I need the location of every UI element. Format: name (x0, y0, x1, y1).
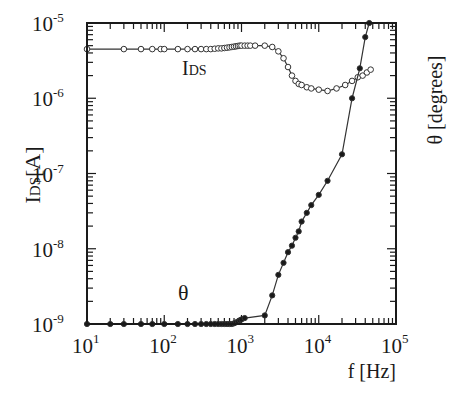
theta-series-annotation: θ (178, 280, 189, 305)
theta-marker (296, 229, 301, 234)
IDS-marker (334, 86, 340, 92)
IDS-marker (185, 46, 191, 52)
IDS-marker (342, 82, 348, 88)
IDS-marker (121, 46, 127, 52)
theta-marker (316, 192, 321, 197)
ids-series-annotation: IDS (182, 57, 207, 79)
y-tick-label: 10-5 (32, 10, 64, 36)
IDS-marker (308, 86, 314, 92)
y-tick-label: 10-9 (32, 311, 64, 337)
theta-marker (281, 260, 286, 265)
IDS-marker (349, 78, 355, 84)
y-axis-title: IDS[A] (20, 146, 45, 203)
x-tick-label: 102 (149, 331, 177, 358)
x-tick-label: 104 (304, 331, 332, 358)
IDS-marker (192, 46, 198, 52)
IDS-marker (316, 87, 322, 93)
theta-marker (276, 272, 281, 277)
y-tick-label: 10-8 (32, 236, 64, 262)
chart: 10-510-610-710-810-9 101102103104105 IDS… (0, 0, 470, 400)
plot-curves (84, 20, 373, 326)
theta-marker (363, 34, 368, 39)
y-tick-label: 10-6 (32, 85, 64, 111)
x-tick-label: 103 (227, 331, 255, 358)
theta-marker (357, 66, 362, 71)
IDS-marker (149, 46, 155, 52)
theta-marker (299, 219, 304, 224)
theta-marker (325, 178, 330, 183)
IDS-marker (368, 67, 374, 73)
plot-frame (87, 23, 396, 324)
IDS-marker (289, 73, 295, 79)
axis-ticks (87, 23, 396, 324)
x-axis-title: f [Hz] (348, 360, 396, 382)
theta-line (87, 23, 369, 324)
theta-marker (262, 313, 267, 318)
theta-marker (285, 250, 290, 255)
theta-marker (349, 96, 354, 101)
theta-marker (242, 315, 247, 320)
IDS-marker (325, 88, 331, 94)
IDS-marker (285, 64, 291, 70)
theta-marker (289, 243, 294, 248)
IDS-marker (269, 44, 275, 50)
theta-marker (309, 203, 314, 208)
x-tick-label: 101 (72, 331, 100, 358)
theta-marker (270, 293, 275, 298)
theta-marker (304, 210, 309, 215)
IDS-marker (252, 43, 258, 49)
y-axis-right-title: θ [degrees] (424, 56, 447, 145)
IDS-marker (262, 43, 268, 49)
x-tick-label: 105 (381, 331, 409, 358)
theta-marker (339, 152, 344, 157)
IDS-marker (161, 46, 167, 52)
IDS-marker (281, 55, 287, 61)
IDS-marker (175, 46, 181, 52)
IDS-marker (138, 46, 144, 52)
IDS-marker (276, 49, 282, 55)
theta-marker (293, 235, 298, 240)
x-tick-labels: 101102103104105 (72, 331, 409, 358)
IDS-line (87, 46, 371, 91)
